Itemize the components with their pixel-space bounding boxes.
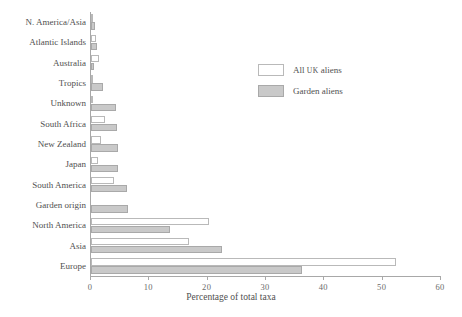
category-label: Japan [66,159,87,169]
bar-garden-aliens [91,63,94,70]
x-tick-mark [148,276,149,280]
category-label: Unknown [51,98,87,108]
x-tick-label: 50 [377,282,386,292]
chart-legend: All UK aliens Garden aliens [258,62,343,104]
category-label: Tropics [59,78,86,88]
bar-all-uk-aliens [91,157,98,164]
x-tick-mark [90,276,91,280]
x-tick-mark [382,276,383,280]
legend-swatch-garden-aliens [258,85,284,97]
x-tick-label: 30 [260,282,269,292]
bar-garden-aliens [91,185,127,192]
bar-all-uk-aliens [91,55,99,62]
bar-garden-aliens [91,144,118,151]
bar-all-uk-aliens [91,96,93,103]
legend-label-garden-aliens: Garden aliens [293,86,343,96]
x-tick-mark [265,276,266,280]
category-label: Atlantic Islands [29,37,86,47]
x-axis-title: Percentage of total taxa [0,292,462,302]
chart-figure: N. America/AsiaAtlantic IslandsAustralia… [0,0,462,317]
category-label: Australia [53,58,86,68]
bar-all-uk-aliens [91,258,396,265]
x-tick-mark [440,276,441,280]
category-label: Asia [70,241,87,251]
legend-label-all-uk-aliens: All UK aliens [293,65,342,75]
bar-all-uk-aliens [91,75,93,82]
bar-all-uk-aliens [91,238,189,245]
bar-all-uk-aliens [91,116,105,123]
x-tick-mark [323,276,324,280]
category-label: South Africa [40,119,86,129]
bar-all-uk-aliens [91,14,93,21]
category-label: North America [32,220,86,230]
bar-all-uk-aliens [91,218,209,225]
legend-item-all-uk-aliens: All UK aliens [258,62,343,78]
bar-garden-aliens [91,226,170,233]
category-axis-labels: N. America/AsiaAtlantic IslandsAustralia… [0,12,86,276]
x-tick-label: 60 [435,282,444,292]
x-tick-label: 20 [202,282,211,292]
bar-garden-aliens [91,43,97,50]
x-tick-label: 10 [144,282,153,292]
x-tick-label: 40 [319,282,328,292]
legend-swatch-all-uk-aliens [258,64,284,76]
bar-garden-aliens [91,266,302,273]
x-tick-mark [207,276,208,280]
category-label: Europe [60,261,86,271]
bar-garden-aliens [91,246,222,253]
bar-garden-aliens [91,22,95,29]
category-label: N. America/Asia [26,17,86,27]
bar-garden-aliens [91,124,117,131]
bar-all-uk-aliens [91,35,96,42]
plot-area: 0102030405060 [90,12,440,276]
category-label: Garden origin [36,200,86,210]
bar-garden-aliens [91,83,103,90]
bar-garden-aliens [91,104,116,111]
category-label: South America [32,180,86,190]
category-label: New Zealand [38,139,86,149]
bar-garden-aliens [91,165,118,172]
bar-garden-aliens [91,205,128,212]
bar-all-uk-aliens [91,177,114,184]
legend-item-garden-aliens: Garden aliens [258,83,343,99]
bar-all-uk-aliens [91,136,101,143]
x-tick-label: 0 [88,282,93,292]
